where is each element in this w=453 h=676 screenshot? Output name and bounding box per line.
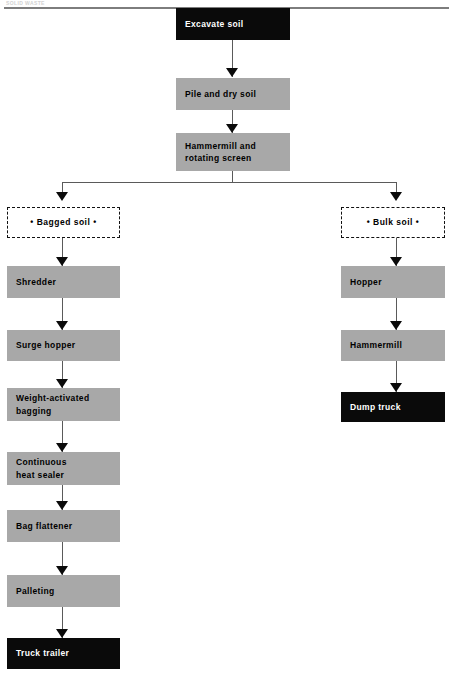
- arrow-head-icon: [56, 501, 68, 510]
- node-continuous-heat-sealer[interactable]: Continuous heat sealer: [7, 452, 120, 485]
- node-label: Surge hopper: [16, 339, 75, 351]
- node-label: Hammermill: [350, 339, 402, 351]
- page-header-text: SOLID WASTE: [6, 0, 45, 6]
- node-label: Shredder: [16, 276, 56, 288]
- arrow-head-icon: [56, 321, 68, 330]
- node-hammermill-and-rotating-screen[interactable]: Hammermill and rotating screen: [176, 133, 290, 171]
- arrow-head-icon: [56, 379, 68, 388]
- node-weight-activated-bagging[interactable]: Weight-activated bagging: [7, 388, 120, 421]
- node-label: Dump truck: [350, 401, 401, 413]
- connector-split-bar: [62, 182, 397, 183]
- node-surge-hopper[interactable]: Surge hopper: [7, 330, 120, 361]
- node-palleting[interactable]: Palleting: [7, 575, 120, 607]
- node-label: Bag flattener: [16, 520, 73, 532]
- branch-header-bagged-soil[interactable]: • Bagged soil •: [7, 207, 120, 238]
- node-label: Pile and dry soil: [185, 88, 256, 100]
- node-excavate-soil[interactable]: Excavate soil: [176, 8, 290, 40]
- node-label: Palleting: [16, 585, 55, 597]
- node-hammermill[interactable]: Hammermill: [341, 330, 445, 361]
- branch-header-label: • Bulk soil •: [367, 216, 420, 228]
- arrow-head-icon: [390, 257, 402, 266]
- node-label: Weight-activated bagging: [16, 392, 89, 417]
- branch-header-label: • Bagged soil •: [30, 216, 96, 228]
- node-truck-trailer[interactable]: Truck trailer: [7, 638, 120, 669]
- node-label: Truck trailer: [16, 647, 69, 659]
- arrow-head-icon: [56, 257, 68, 266]
- arrow-head-icon: [390, 383, 402, 392]
- node-label: Excavate soil: [185, 18, 243, 30]
- node-label: Continuous heat sealer: [16, 456, 67, 481]
- node-bag-flattener[interactable]: Bag flattener: [7, 510, 120, 542]
- arrow-head-icon: [56, 629, 68, 638]
- flowchart-page: SOLID WASTE Excavate soil Pile and dry s…: [0, 0, 453, 676]
- node-pile-and-dry-soil[interactable]: Pile and dry soil: [176, 78, 290, 110]
- node-dump-truck[interactable]: Dump truck: [341, 392, 445, 422]
- arrow-head-icon: [390, 192, 402, 201]
- arrow-head-icon: [56, 566, 68, 575]
- arrow-head-icon: [56, 192, 68, 201]
- node-label: Hopper: [350, 276, 382, 288]
- node-label: Hammermill and rotating screen: [185, 140, 256, 165]
- node-hopper[interactable]: Hopper: [341, 266, 445, 298]
- arrow-head-icon: [226, 124, 238, 133]
- arrow-head-icon: [390, 321, 402, 330]
- node-shredder[interactable]: Shredder: [7, 266, 120, 298]
- arrow-head-icon: [226, 68, 238, 77]
- arrow-head-icon: [56, 443, 68, 452]
- branch-header-bulk-soil[interactable]: • Bulk soil •: [341, 207, 445, 238]
